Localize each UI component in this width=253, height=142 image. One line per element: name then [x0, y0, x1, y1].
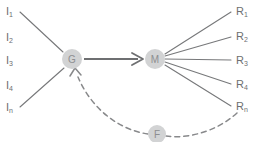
output-label-1: R1	[236, 5, 248, 18]
edge-m-to-output-2	[165, 37, 231, 56]
node-g[interactable]: G	[62, 49, 82, 69]
diagram-container: G M F I1 I2 I3 I4 In R1 R2 R3 R4 Rn	[0, 0, 253, 142]
output-label-2: R2	[236, 30, 248, 43]
edge-feedback-right-segment	[166, 113, 237, 137]
diagram-canvas: G M F I1 I2 I3 I4 In R1 R2 R3 R4 Rn	[0, 0, 253, 142]
output-label-4: R4	[236, 78, 248, 91]
input-label-group: I1 I2 I3 I4 In	[6, 5, 13, 114]
edge-m-to-output-1	[165, 12, 231, 54]
main-path-group	[84, 53, 143, 65]
node-f-label: F	[154, 129, 160, 140]
input-label-3: I3	[6, 54, 13, 67]
node-m[interactable]: M	[145, 49, 165, 69]
output-label-n: Rn	[236, 100, 248, 113]
edge-m-to-output-3	[165, 59, 231, 60]
edge-m-to-output-4	[165, 62, 231, 84]
edge-m-to-output-n	[165, 65, 231, 106]
output-label-3: R3	[236, 54, 248, 67]
node-f[interactable]: F	[148, 125, 166, 142]
edge-feedback-left-segment	[78, 77, 148, 134]
input-label-n: In	[6, 101, 13, 114]
node-m-label: M	[151, 54, 159, 65]
input-label-1: I1	[6, 5, 13, 18]
input-label-2: I2	[6, 31, 13, 44]
output-label-group: R1 R2 R3 R4 Rn	[236, 5, 248, 113]
input-label-4: I4	[6, 79, 13, 92]
edge-input-1-to-g	[20, 12, 63, 52]
arrowhead-feedback-to-g-icon	[70, 68, 81, 76]
edge-input-n-to-g	[20, 68, 64, 107]
input-edge-group	[20, 12, 64, 107]
node-g-label: G	[68, 54, 76, 65]
output-edge-group	[165, 12, 231, 106]
